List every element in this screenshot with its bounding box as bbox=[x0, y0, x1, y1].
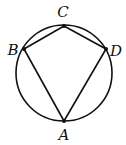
segment-da bbox=[64, 49, 106, 121]
label-b: B bbox=[6, 41, 18, 59]
point-a bbox=[62, 119, 66, 123]
point-d bbox=[104, 47, 108, 51]
label-d: D bbox=[109, 42, 122, 60]
label-c: C bbox=[57, 3, 69, 21]
circle-quadrilateral-diagram: A B C D bbox=[0, 0, 126, 145]
segment-ab bbox=[24, 49, 64, 121]
point-b bbox=[22, 47, 26, 51]
circumcircle bbox=[16, 25, 112, 121]
point-c bbox=[62, 24, 66, 28]
label-a: A bbox=[57, 126, 70, 144]
